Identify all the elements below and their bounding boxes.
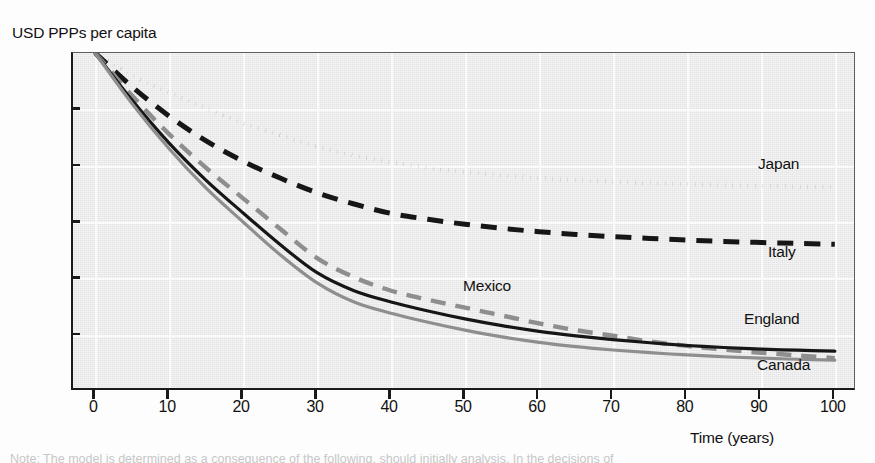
x-tick-label: 50 <box>433 398 493 416</box>
x-tick-mark <box>240 390 243 399</box>
x-tick-mark <box>388 390 391 399</box>
x-tick-mark <box>314 390 317 399</box>
y-tick-mark <box>71 107 80 110</box>
x-tick-label: 20 <box>211 398 271 416</box>
series-label-japan: Japan <box>758 155 799 173</box>
x-tick-mark <box>166 390 169 399</box>
series-label-england: England <box>744 310 799 328</box>
series-label-canada: Canada <box>757 356 810 374</box>
x-tick-mark <box>684 390 687 399</box>
y-tick-mark <box>71 164 80 167</box>
x-tick-mark <box>758 390 761 399</box>
series-curves <box>73 53 855 390</box>
x-tick-mark <box>610 390 613 399</box>
x-tick-mark <box>92 390 95 399</box>
series-line-canada <box>95 53 835 360</box>
y-axis-title: USD PPPs per capita <box>12 24 156 42</box>
x-tick-label: 80 <box>655 398 715 416</box>
x-tick-label: 10 <box>137 398 197 416</box>
series-label-mexico: Mexico <box>463 277 511 295</box>
figure-footnote: Note: The model is determined as a conse… <box>10 452 870 463</box>
series-line-italy <box>95 53 835 244</box>
x-tick-mark <box>462 390 465 399</box>
x-tick-label: 30 <box>285 398 345 416</box>
y-tick-mark <box>71 220 80 223</box>
x-tick-mark <box>536 390 539 399</box>
x-tick-label: 100 <box>803 398 863 416</box>
x-tick-label: 70 <box>581 398 641 416</box>
x-tick-mark <box>832 390 835 399</box>
plot-area <box>71 52 855 390</box>
x-tick-label: 0 <box>63 398 123 416</box>
y-tick-mark <box>71 333 80 336</box>
x-axis-title: Time (years) <box>690 429 774 447</box>
y-tick-mark <box>71 276 80 279</box>
series-line-mexico <box>95 53 835 358</box>
chart-figure: USD PPPs per capita 0-25-50-75-100-125-1… <box>0 0 875 463</box>
x-tick-label: 90 <box>729 398 789 416</box>
series-label-italy: Italy <box>768 243 795 261</box>
x-tick-label: 60 <box>507 398 567 416</box>
x-tick-label: 40 <box>359 398 419 416</box>
